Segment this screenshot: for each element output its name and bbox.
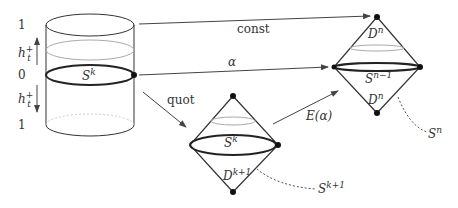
label-zero: 0 — [18, 68, 26, 82]
label-Dk+1: Dk+1 — [222, 167, 251, 183]
label-Sk-middle: Sk — [224, 134, 238, 150]
label-Dn-bottom: Dn — [367, 91, 384, 107]
middle-diamond — [190, 93, 315, 195]
label-top-1: 1 — [18, 18, 26, 32]
label-E-alpha: E(α) — [305, 109, 333, 123]
label-alpha: α — [228, 55, 236, 69]
label-h-upper: h+t — [18, 44, 33, 63]
label-quot: quot — [167, 93, 195, 107]
label-Dn-top: Dn — [367, 25, 384, 41]
label-Sn-1: Sn−1 — [365, 70, 392, 86]
label-Sk+1: Sk+1 — [318, 180, 345, 196]
basepoint-dot — [131, 72, 137, 78]
label-const: const — [237, 22, 270, 36]
label-sk-cylinder: Sk — [82, 67, 96, 83]
label-Sn: Sn — [428, 125, 442, 141]
label-h-lower: h+t — [18, 90, 33, 109]
homotopy-diagram: 1 0 1 h+t h+t Sk const α quot E(α) Dn Sn… — [0, 0, 458, 208]
label-bottom-1: 1 — [18, 118, 26, 132]
